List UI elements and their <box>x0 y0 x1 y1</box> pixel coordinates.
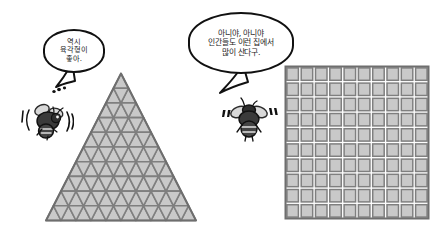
square-cell <box>387 129 399 141</box>
cartoon-scene: 역시 육각형이 좋아. 아니야, 아니야 인간들도 이런 집에서 많이 산다구. <box>0 0 448 238</box>
square-cell <box>316 205 328 217</box>
square-cell <box>301 114 313 126</box>
square-cell <box>416 144 428 156</box>
square-cell <box>344 159 356 171</box>
square-cell <box>373 114 385 126</box>
square-cell <box>373 190 385 202</box>
square-cell <box>344 205 356 217</box>
square-cell <box>373 98 385 110</box>
square-cell <box>330 159 342 171</box>
bubble-right-line-3: 많이 산다구. <box>222 48 261 57</box>
square-cell <box>330 174 342 186</box>
bee-head <box>51 113 60 122</box>
square-cell <box>373 205 385 217</box>
square-cell <box>287 190 299 202</box>
square-cell <box>287 174 299 186</box>
square-cell <box>330 129 342 141</box>
square-cell <box>316 98 328 110</box>
square-cell <box>287 83 299 95</box>
square-cell <box>301 205 313 217</box>
square-cell <box>330 205 342 217</box>
square-cell <box>358 129 370 141</box>
square-cell <box>316 83 328 95</box>
square-cell <box>358 114 370 126</box>
square-cell <box>344 98 356 110</box>
square-cell <box>373 68 385 80</box>
square-cell <box>316 159 328 171</box>
square-cell <box>387 159 399 171</box>
square-cell <box>401 205 413 217</box>
square-cell <box>416 68 428 80</box>
square-cell <box>416 98 428 110</box>
square-cell <box>401 68 413 80</box>
speech-bubble-right: 아니야, 아니야 인간들도 이런 집에서 많이 산다구. <box>188 12 294 74</box>
square-grid-svg <box>283 64 431 221</box>
square-cell <box>301 129 313 141</box>
square-cell <box>416 129 428 141</box>
square-cell <box>373 83 385 95</box>
square-cell <box>358 174 370 186</box>
bee-eye <box>56 116 59 119</box>
square-tessellation-figure <box>283 64 431 221</box>
square-cell <box>401 174 413 186</box>
bee-right <box>219 96 279 142</box>
square-cell <box>401 129 413 141</box>
square-cell <box>330 68 342 80</box>
square-cell <box>287 144 299 156</box>
square-cell <box>373 144 385 156</box>
square-cell <box>330 114 342 126</box>
square-cell <box>344 83 356 95</box>
square-cell <box>416 159 428 171</box>
bubble-right-line-2: 인간들도 이런 집에서 <box>208 38 274 47</box>
bee-left <box>20 99 74 141</box>
square-cell <box>316 68 328 80</box>
speech-bubble-left: 역시 육각형이 좋아. <box>43 29 105 73</box>
square-cell <box>416 190 428 202</box>
square-cell <box>387 190 399 202</box>
square-cell <box>387 174 399 186</box>
square-cell <box>330 83 342 95</box>
square-cell <box>301 68 313 80</box>
square-cell <box>387 144 399 156</box>
square-cell <box>416 205 428 217</box>
square-cell <box>344 190 356 202</box>
square-cell <box>301 159 313 171</box>
square-cell <box>316 129 328 141</box>
square-cell <box>358 159 370 171</box>
square-cell <box>358 68 370 80</box>
square-cell <box>401 83 413 95</box>
square-cell <box>416 83 428 95</box>
square-cell <box>401 114 413 126</box>
triangle-cell-up <box>114 74 129 89</box>
square-cell <box>387 98 399 110</box>
triangle-grid-svg <box>45 72 197 222</box>
square-cell <box>316 190 328 202</box>
square-cell <box>344 129 356 141</box>
square-cell <box>316 174 328 186</box>
square-cell <box>330 190 342 202</box>
square-cell <box>358 83 370 95</box>
square-cell <box>401 190 413 202</box>
square-cell <box>301 83 313 95</box>
square-cell <box>387 83 399 95</box>
square-cell <box>358 190 370 202</box>
square-cell <box>373 174 385 186</box>
square-cell <box>401 159 413 171</box>
square-cell <box>344 144 356 156</box>
square-cell <box>387 114 399 126</box>
square-cell <box>373 159 385 171</box>
triangle-tessellation-figure <box>45 72 197 222</box>
square-cell <box>316 114 328 126</box>
square-cell <box>287 205 299 217</box>
square-cell <box>316 144 328 156</box>
square-cell <box>358 98 370 110</box>
square-cell <box>344 114 356 126</box>
bubble-left-line-3: 좋아. <box>66 55 82 63</box>
square-cell <box>301 144 313 156</box>
square-cell <box>358 144 370 156</box>
square-cell <box>287 129 299 141</box>
square-cell <box>416 174 428 186</box>
square-cell <box>401 98 413 110</box>
square-cell <box>301 98 313 110</box>
square-cell <box>387 68 399 80</box>
